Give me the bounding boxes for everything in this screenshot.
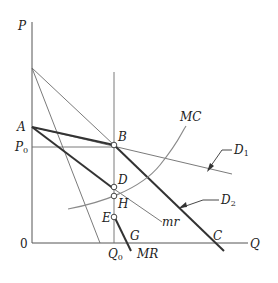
d2-arrowhead xyxy=(179,202,187,208)
point-b-marker xyxy=(111,142,117,148)
label-d1: D1 xyxy=(233,143,249,158)
label-b: B xyxy=(117,130,127,144)
d1-arrowhead xyxy=(207,163,214,172)
origin-label: 0 xyxy=(20,237,28,251)
upper-mr-extension xyxy=(32,68,100,243)
label-p0: P0 xyxy=(14,140,28,155)
label-mc: MC xyxy=(179,110,201,124)
label-h: H xyxy=(117,197,129,211)
label-c: C xyxy=(213,229,222,243)
label-a: A xyxy=(16,120,26,134)
economics-diagram: P Q 0 A P0 B D H E G C Q0 MC D1 D2 mr MR xyxy=(0,0,278,283)
upper-demand-extension xyxy=(32,68,114,145)
label-d: D xyxy=(117,173,128,187)
x-axis-label: Q xyxy=(250,237,260,251)
label-g: G xyxy=(130,229,140,243)
label-d2: D2 xyxy=(220,193,236,208)
label-q0: Q0 xyxy=(108,247,123,262)
point-h-marker xyxy=(111,193,117,199)
label-mr: MR xyxy=(136,247,158,261)
mr-lower-segment xyxy=(114,216,131,251)
y-axis-label: P xyxy=(17,19,27,33)
label-mr-thin: mr xyxy=(162,215,180,229)
point-d-marker xyxy=(111,184,117,190)
point-e-marker xyxy=(111,214,117,220)
label-e: E xyxy=(101,211,111,225)
